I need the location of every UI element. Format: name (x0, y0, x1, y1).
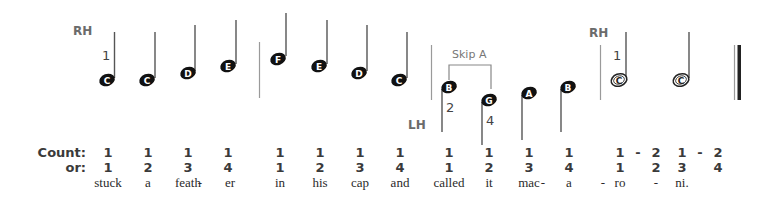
count-label: Count: (6, 145, 86, 160)
or-value: 4 (703, 160, 733, 175)
or-value: 1 (93, 160, 123, 175)
count-value: 1 (93, 145, 123, 160)
count-value: 1 (385, 145, 415, 160)
or-value: 3 (667, 160, 697, 175)
lyric-syllable: ro (595, 175, 645, 191)
fingering-number: 4 (486, 113, 494, 128)
or-value: 3 (173, 160, 203, 175)
count-value: 1 (514, 145, 544, 160)
left-hand-label: LH (408, 118, 426, 132)
lyric-syllable: a (544, 175, 594, 191)
or-value: 2 (305, 160, 335, 175)
note-letter: E (316, 62, 322, 72)
or-label: or: (6, 160, 86, 175)
note-letter: G (485, 96, 492, 106)
or-value: 3 (514, 160, 544, 175)
skip-annotation: Skip A (452, 48, 486, 61)
count-value: 1 (474, 145, 504, 160)
note-letter: C (396, 76, 403, 86)
note-letter: E (225, 62, 231, 72)
count-value: 1 (305, 145, 335, 160)
or-value: 2 (474, 160, 504, 175)
note-letter: C (144, 76, 151, 86)
note-letter: B (565, 83, 572, 93)
or-value: 4 (385, 160, 415, 175)
fingering-number: 1 (102, 48, 110, 63)
right-hand-label: RH (73, 24, 92, 38)
count-value: 1 (554, 145, 584, 160)
note-letter: F (275, 55, 281, 65)
or-value: 4 (213, 160, 243, 175)
fingering-number: 2 (446, 100, 454, 115)
note-letter: A (526, 89, 533, 99)
note-letter: D (355, 69, 362, 79)
final-barline-thick (738, 45, 742, 100)
or-value: 1 (265, 160, 295, 175)
count-value: 1 (133, 145, 163, 160)
or-value: 3 (345, 160, 375, 175)
count-value: 1 (345, 145, 375, 160)
or-value: 2 (133, 160, 163, 175)
note-letter: B (446, 83, 453, 93)
note-letter: C (104, 76, 111, 86)
count-value: 1 (265, 145, 295, 160)
count-value: 1 (173, 145, 203, 160)
or-value: 1 (605, 160, 635, 175)
lyric-syllable: and (375, 175, 425, 191)
lyric-syllable: er (205, 175, 255, 191)
note-letter: C (678, 76, 685, 86)
count-value: 1 (434, 145, 464, 160)
count-value: 1 (213, 145, 243, 160)
lyric-syllable: ni. (657, 175, 707, 191)
note-letter: C (616, 76, 623, 86)
or-value: 4 (554, 160, 584, 175)
fingering-number: 1 (613, 48, 621, 63)
right-hand-label: RH (589, 26, 608, 40)
note-letter: D (184, 69, 191, 79)
or-value: 1 (434, 160, 464, 175)
count-value: 2 (703, 145, 733, 160)
